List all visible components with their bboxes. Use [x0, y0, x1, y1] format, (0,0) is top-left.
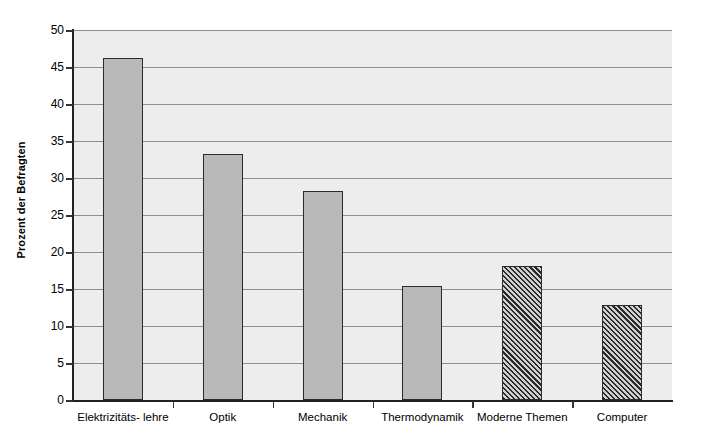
x-axis-tick-mark — [273, 401, 275, 408]
y-axis-tick-label: 15 — [51, 283, 64, 295]
x-axis-tick-mark — [373, 401, 375, 408]
y-axis-tick-label: 0 — [57, 394, 64, 406]
x-axis-tick-mark — [173, 401, 175, 408]
x-axis-tick-label: Optik — [209, 410, 236, 424]
y-axis-tick-mark — [66, 178, 73, 180]
y-axis-tick-label: 50 — [51, 24, 64, 36]
y-axis-tick-mark — [66, 400, 73, 402]
x-axis-tick-label: Computer — [597, 410, 648, 424]
y-axis-tick-mark — [66, 67, 73, 69]
y-axis-tick-label: 35 — [51, 135, 64, 147]
bar — [103, 58, 143, 400]
bar-chart-figure: Prozent der Befragten 051015202530354045… — [0, 0, 706, 445]
y-axis-title-label: Prozent der Befragten — [14, 141, 26, 258]
y-axis-tick-label: 45 — [51, 61, 64, 73]
bar — [502, 266, 542, 400]
y-axis-tick-mark — [66, 363, 73, 365]
y-axis-tick-label: 40 — [51, 98, 64, 110]
x-axis-tick-labels: Elektrizitäts- lehreOptikMechanikThermod… — [73, 410, 672, 432]
bar — [602, 305, 642, 400]
y-axis-tick-label: 10 — [51, 320, 64, 332]
bar — [402, 286, 442, 400]
y-axis-tick-mark — [66, 215, 73, 217]
bar — [303, 191, 343, 400]
y-axis-tick-label: 25 — [51, 209, 64, 221]
x-axis-tick-label: Thermodynamik — [381, 410, 463, 424]
y-axis-tick-mark — [66, 141, 73, 143]
y-axis-tick-mark — [66, 30, 73, 32]
y-axis-tick-label: 30 — [51, 172, 64, 184]
bars-layer — [73, 30, 672, 400]
x-axis-tick-mark — [572, 401, 574, 408]
y-axis-tick-mark — [66, 289, 73, 291]
y-axis-tick-mark — [66, 326, 73, 328]
bar — [203, 154, 243, 400]
y-axis-tick-mark — [66, 104, 73, 106]
x-axis-tick-label: Moderne Themen — [477, 410, 568, 424]
y-axis-title: Prozent der Befragten — [8, 0, 32, 400]
x-axis-tick-mark — [472, 401, 474, 408]
x-axis-tick-label: Mechanik — [298, 410, 347, 424]
y-axis-tick-mark — [66, 252, 73, 254]
y-axis-tick-labels: 05101520253035404550 — [32, 30, 64, 400]
y-axis-tick-label: 20 — [51, 246, 64, 258]
y-axis-tick-label: 5 — [57, 357, 64, 369]
x-axis-tick-label: Elektrizitäts- lehre — [77, 410, 168, 424]
